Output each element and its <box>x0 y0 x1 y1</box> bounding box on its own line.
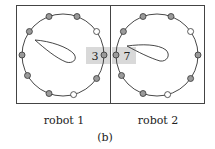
node-marker <box>101 52 107 58</box>
node-marker <box>140 14 146 20</box>
figure-caption: (b) <box>85 131 125 144</box>
panel-robot-1: 3 <box>19 14 107 98</box>
node-marker <box>165 92 171 98</box>
node-marker <box>168 14 174 20</box>
node-marker <box>113 52 119 58</box>
node-marker <box>46 14 52 20</box>
node-marker <box>26 29 32 35</box>
panel-robot-2: 7 <box>113 14 201 98</box>
node-marker <box>120 29 126 35</box>
panel-label-robot-1: robot 1 <box>24 114 104 127</box>
node-marker <box>94 29 100 35</box>
node-marker <box>119 73 125 79</box>
node-marker <box>188 76 194 82</box>
node-marker <box>140 91 146 97</box>
node-marker <box>71 92 77 98</box>
node-marker <box>25 73 31 79</box>
node-marker <box>188 29 194 35</box>
node-marker <box>195 52 201 58</box>
node-marker <box>94 76 100 82</box>
node-marker <box>46 91 52 97</box>
node-marker <box>74 14 80 20</box>
node-marker <box>19 52 25 58</box>
node-number: 7 <box>124 50 131 63</box>
teardrop-shape <box>35 40 75 63</box>
panel-label-robot-2: robot 2 <box>118 114 198 127</box>
node-number: 3 <box>92 50 99 63</box>
